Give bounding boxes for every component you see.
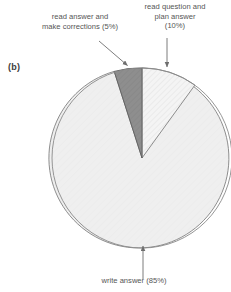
pie-chart-figure: (b) read answer and make corrections (5%… xyxy=(0,0,231,292)
callout-label-write-answer: write answer (85%) xyxy=(76,276,192,286)
leader-arrow-corrections xyxy=(99,41,128,66)
panel-label: (b) xyxy=(8,62,20,72)
callout-label-make-corrections: read answer and make corrections (5%) xyxy=(24,12,136,31)
callout-label-plan-answer: read question and plan answer (10%) xyxy=(128,2,222,31)
pie-chart-svg xyxy=(0,0,231,292)
